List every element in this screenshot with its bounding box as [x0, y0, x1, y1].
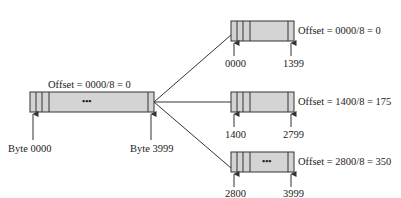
connector-line: [154, 102, 231, 168]
fragment-1-offset-label: Offset = 0000/8 = 0: [298, 26, 381, 37]
original-offset-label: Offset = 0000/8 = 0: [48, 80, 131, 91]
fragment-3-ellipsis: •••: [262, 157, 271, 166]
fragment-1-start-label: 0000: [225, 59, 246, 70]
connector-line: [154, 35, 231, 102]
fragment-box-1: [231, 21, 294, 41]
fragment-1-end-label: 1399: [283, 59, 304, 70]
fragment-3-offset-label: Offset = 2800/8 = 350: [298, 157, 391, 168]
fragment-2-end-label: 2799: [283, 130, 304, 141]
fragment-3-end-label: 3999: [283, 189, 304, 198]
original-ellipsis: •••: [82, 97, 91, 106]
original-end-label: Byte 3999: [130, 144, 173, 155]
fragment-2-start-label: 1400: [225, 130, 246, 141]
fragment-2-offset-label: Offset = 1400/8 = 175: [298, 97, 391, 108]
fragment-box-2: [231, 92, 294, 112]
original-start-label: Byte 0000: [8, 144, 51, 155]
fragment-3-start-label: 2800: [225, 189, 246, 198]
original-datagram-box: [30, 92, 154, 112]
